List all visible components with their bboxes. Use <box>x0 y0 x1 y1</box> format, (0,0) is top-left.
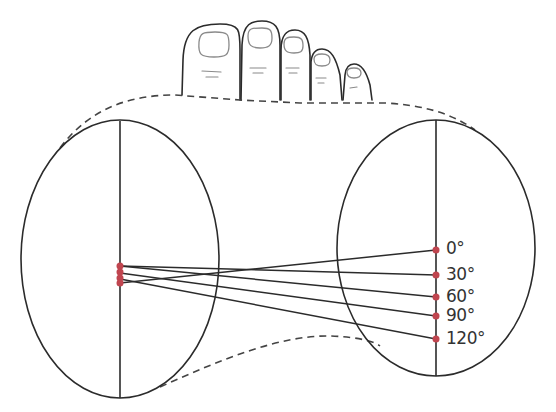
left-point-4 <box>117 280 124 287</box>
fourth-toe <box>311 49 342 100</box>
foot-outline-dashed <box>60 95 475 387</box>
second-toe <box>241 21 280 100</box>
right-point-120 <box>433 336 440 343</box>
right-point-60 <box>433 294 440 301</box>
right-point-30 <box>433 272 440 279</box>
connection-lines <box>120 250 436 339</box>
toes-illustration <box>182 21 372 100</box>
angle-label-120: 120° <box>446 330 485 347</box>
big-toe <box>182 24 240 100</box>
right-point-90 <box>433 313 440 320</box>
left-point-2 <box>117 269 124 276</box>
diagram-canvas <box>0 0 556 412</box>
dashed-top-contour <box>60 95 475 148</box>
left-cross-section <box>21 120 219 398</box>
angle-label-30: 30° <box>446 266 475 283</box>
angle-label-0: 0° <box>446 240 464 257</box>
dashed-bottom-contour <box>160 336 380 387</box>
line-0-deg <box>120 250 436 283</box>
toe-angle-diagram: 0° 30° 60° 90° 120° <box>0 0 556 412</box>
left-point-1 <box>117 263 124 270</box>
angle-label-60: 60° <box>446 288 475 305</box>
left-points <box>117 263 124 287</box>
right-point-0 <box>433 247 440 254</box>
third-toe <box>281 30 310 100</box>
angle-label-90: 90° <box>446 307 475 324</box>
